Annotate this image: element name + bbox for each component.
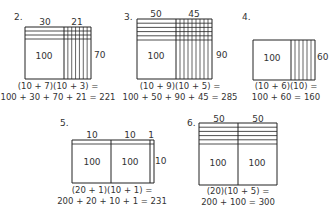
area-model-diagrams xyxy=(0,0,335,211)
